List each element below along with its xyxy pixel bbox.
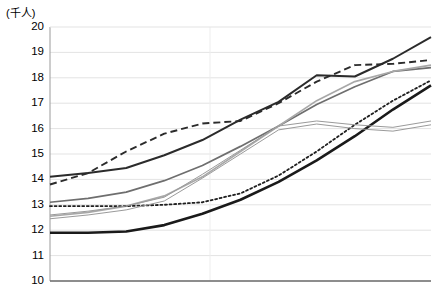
y-axis-tick-10: 10	[10, 275, 44, 287]
y-axis-tick-19: 19	[10, 47, 44, 59]
y-axis-tick-15: 15	[10, 148, 44, 160]
plot-area	[50, 27, 431, 281]
line-chart: (千人) 2019181716151413121110	[0, 0, 434, 289]
y-axis-tick-17: 17	[10, 97, 44, 109]
y-axis-tick-16: 16	[10, 123, 44, 135]
y-axis-tick-13: 13	[10, 199, 44, 211]
plot-svg	[50, 27, 431, 281]
y-axis-tick-11: 11	[10, 250, 44, 262]
y-axis-tick-18: 18	[10, 72, 44, 84]
y-axis-tick-20: 20	[10, 21, 44, 33]
y-axis-tick-14: 14	[10, 174, 44, 186]
data-line-series-dotted	[50, 80, 431, 206]
data-line-series-dark-solid	[50, 37, 431, 177]
data-line-series-light-gray-solid	[50, 65, 431, 216]
data-line-series-gray-solid	[50, 68, 431, 203]
y-axis-tick-labels: 2019181716151413121110	[4, 0, 44, 289]
data-line-series-bold-black	[50, 85, 431, 232]
y-axis-tick-12: 12	[10, 224, 44, 236]
